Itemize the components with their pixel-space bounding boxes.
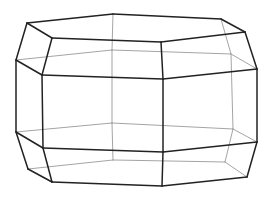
edge-n5-n4 <box>163 142 257 152</box>
edge-t5-t6 <box>52 38 161 42</box>
edge-b6-b5 <box>52 182 162 186</box>
edge-t4-t5 <box>161 32 245 42</box>
edge-m3-n3 <box>231 54 233 129</box>
edge-n4-b4 <box>247 142 257 177</box>
edge-n3-n4 <box>233 129 257 142</box>
edge-m1-m2 <box>16 50 112 60</box>
edge-t6-t1 <box>27 23 52 38</box>
edge-t1-m1 <box>16 23 27 60</box>
edge-n2-n3 <box>112 123 233 129</box>
edge-m1-m6 <box>16 60 42 75</box>
edge-n1-n2 <box>16 123 112 132</box>
edge-b2-b3 <box>113 160 225 162</box>
edge-m6-m5 <box>42 75 163 79</box>
edge-n5-b5 <box>162 152 163 186</box>
edge-m5-m4 <box>163 69 257 79</box>
edge-t2-m2 <box>112 14 113 50</box>
polyhedron-figure <box>0 0 268 199</box>
edge-m2-m3 <box>112 50 231 54</box>
edge-b5-b4 <box>162 177 247 186</box>
edge-m6-n6 <box>42 75 43 148</box>
edge-b3-b4 <box>225 162 247 177</box>
edge-n6-b6 <box>43 148 52 182</box>
edge-t1-t2 <box>27 14 113 23</box>
edge-t5-m5 <box>161 42 163 79</box>
edge-t2-t3 <box>113 14 221 19</box>
edge-n6-n5 <box>43 148 163 152</box>
edge-n2-b2 <box>112 123 113 160</box>
polyhedron-wireframe <box>0 0 268 199</box>
edge-b1-b2 <box>28 160 113 169</box>
